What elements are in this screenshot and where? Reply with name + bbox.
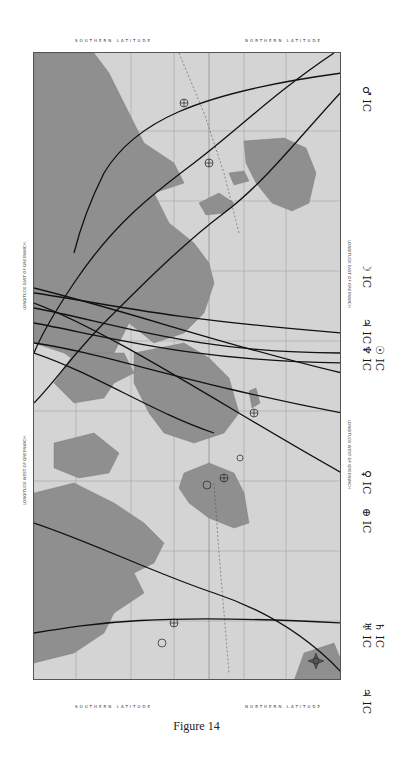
planet-label-saturn-ic: ♄ IC <box>374 622 385 648</box>
bottom-label-southern-latitude: SOUTHERN LATITUDE <box>75 704 152 709</box>
planet-label-jupiter-ic: ♃ IC <box>361 318 372 344</box>
landmasses <box>34 53 341 680</box>
planet-label-jupiter-ic-2: ♃ IC <box>361 688 372 714</box>
planet-label-neptune-ic: ♆ IC <box>361 345 372 371</box>
map-graphic <box>34 53 341 680</box>
left-label-longitude-east: LONGITUDE EAST OF GREENWICH <box>22 242 27 310</box>
bottom-label-northern-latitude: NORTHERN LATITUDE <box>245 704 322 709</box>
planet-label-venus-ic: ♀ IC <box>361 470 372 494</box>
top-label-southern-latitude: SOUTHERN LATITUDE <box>75 38 152 43</box>
left-label-longitude-west: LONGITUDE WEST OF GREENWICH <box>22 436 27 505</box>
top-label-northern-latitude: NORTHERN LATITUDE <box>245 38 322 43</box>
right-label-longitude-east: LONGITUDE EAST OF GREENWICH <box>347 240 352 308</box>
planet-label-mars-ic: ♂ IC <box>361 86 372 112</box>
right-label-longitude-west: LONGITUDE WEST OF GREENWICH <box>347 420 352 489</box>
planet-label-moon-ic: ☽ IC <box>361 262 372 288</box>
planet-label-uranus-ic: ♅ IC <box>361 622 372 648</box>
figure-page: SOUTHERN LATITUDE NORTHERN LATITUDE <box>0 0 393 761</box>
figure-caption: Figure 14 <box>0 719 393 734</box>
planet-label-earth-ic: ⊕ IC <box>361 508 372 533</box>
world-map <box>33 52 341 680</box>
planet-label-sun-ic: ☉ IC <box>374 345 385 371</box>
